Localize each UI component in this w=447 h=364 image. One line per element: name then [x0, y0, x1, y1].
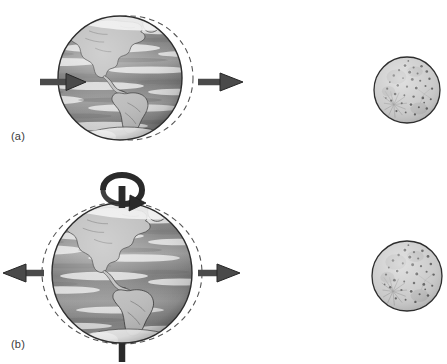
arrow-tidal-left — [3, 264, 44, 282]
panel-a — [40, 16, 440, 153]
tidal-force-figure: (a) (b) — [0, 0, 447, 364]
arrow-exterior-right — [198, 73, 243, 91]
moon-sphere-b — [372, 241, 442, 311]
moon-sphere-a — [374, 57, 440, 123]
panel-b — [3, 175, 442, 362]
figure-canvas — [0, 0, 447, 364]
panel-label-b: (b) — [11, 338, 25, 350]
arrow-tidal-right — [198, 264, 240, 282]
panel-label-a: (a) — [11, 130, 25, 142]
earth-globe-b — [52, 203, 192, 357]
